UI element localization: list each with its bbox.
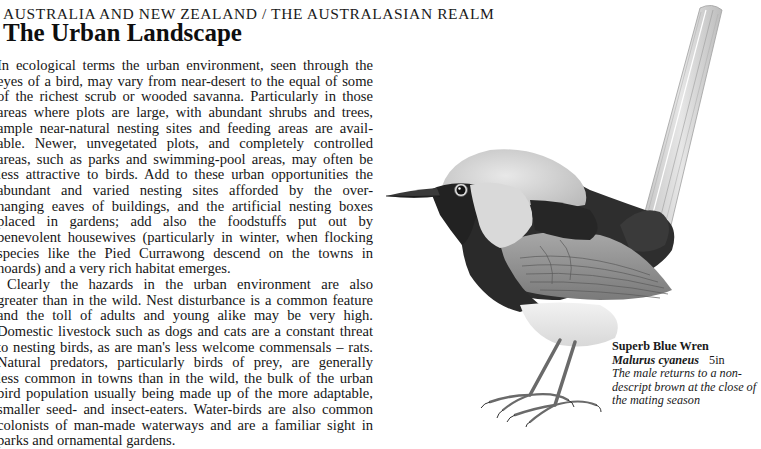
- caption-scientific-row: Malurus cyaneus5in: [612, 354, 761, 368]
- body-line: parks and ornamental gardens.: [0, 433, 373, 449]
- body-line: abundant and varied nesting sites afford…: [0, 183, 373, 199]
- body-line: less common in towns than in the wild, t…: [0, 371, 373, 387]
- caption-common-name: Superb Blue Wren: [612, 340, 761, 354]
- body-line: eyes of a bird, may vary from near-deser…: [0, 74, 373, 90]
- body-line: placed in gardens; add also the foodstuf…: [0, 214, 373, 230]
- body-line: benevolent housewives (particularly in w…: [0, 230, 373, 246]
- body-line: Natural predators, particularly birds of…: [0, 355, 373, 371]
- body-line: able. Newer, unvegetated plots, and comp…: [0, 136, 373, 152]
- caption-description: The male returns to a non-descript brown…: [612, 367, 761, 408]
- body-line: less attractive to birds. Add to these u…: [0, 167, 373, 183]
- body-line: ample near-natural nesting sites and fee…: [0, 121, 373, 137]
- body-line: Clearly the hazards in the urban environ…: [0, 277, 373, 293]
- legs: [490, 340, 596, 422]
- body-line: hoards) and a very rich habitat emerges.: [0, 261, 373, 277]
- caption-size: 5in: [709, 353, 725, 367]
- body-line: bird population usually being made up of…: [0, 386, 373, 402]
- illustration-caption: Superb Blue Wren Malurus cyaneus5in The …: [612, 340, 761, 408]
- body-line: smaller seed- and insect-eaters. Water-b…: [0, 402, 373, 418]
- body-text: In ecological terms the urban environmen…: [0, 58, 373, 449]
- body-line: greater than in the wild. Nest disturban…: [0, 293, 373, 309]
- body-line: In ecological terms the urban environmen…: [0, 58, 373, 74]
- body-line: areas, such as parks and swimming-pool a…: [0, 152, 373, 168]
- body-line: and the toll of adults and young alike m…: [0, 308, 373, 324]
- body-line: species like the Pied Currawong descend …: [0, 246, 373, 262]
- page-title: The Urban Landscape: [3, 19, 242, 47]
- body-line: hanging eaves of buildings, and the arti…: [0, 199, 373, 215]
- caption-scientific-name: Malurus cyaneus: [612, 353, 699, 367]
- head: [386, 149, 598, 248]
- tail: [640, 5, 722, 238]
- body-line: colonists of man-made waterways and are …: [0, 418, 373, 434]
- body-line: Domestic livestock such as dogs and cats…: [0, 324, 373, 340]
- body-line: of the richest scrub or wooded savanna. …: [0, 89, 373, 105]
- body-line: areas where plots are large, with abunda…: [0, 105, 373, 121]
- body-line: to nesting birds, as are man's less welc…: [0, 340, 373, 356]
